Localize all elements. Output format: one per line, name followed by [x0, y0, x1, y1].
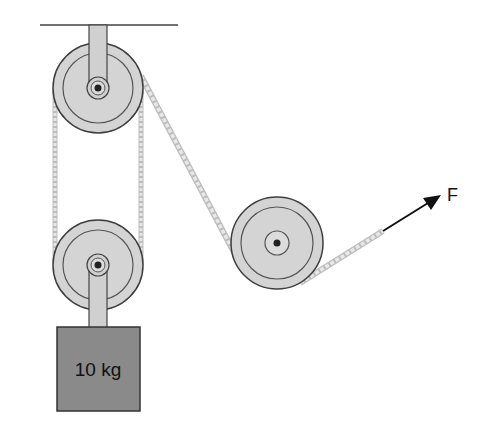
mass-label: 10 kg: [75, 359, 121, 380]
mass-block: 10 kg: [57, 327, 140, 411]
force-arrow: F: [383, 185, 458, 231]
force-label: F: [447, 185, 458, 205]
right-pulley: [231, 197, 323, 289]
bottom-pulley: [53, 220, 143, 328]
pulley-diagram: 10 kg F: [0, 0, 482, 440]
top-pulley: [53, 25, 143, 133]
